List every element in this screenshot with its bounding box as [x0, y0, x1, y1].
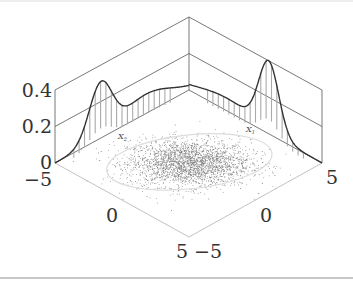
z-tick-0.2: 0.2	[22, 115, 52, 137]
confidence-ellipse	[104, 126, 275, 197]
x2-label: X2	[117, 132, 127, 142]
left-axis-tick-0: 0	[106, 204, 118, 226]
chart-3d-plot: 0.4 0.2 0 −5 0 5 −5 0 5 X2 X1	[0, 0, 353, 281]
left-axis-tick-minus5: −5	[24, 168, 52, 190]
right-axis-tick-minus5: −5	[194, 240, 222, 262]
left-axis-tick-5: 5	[176, 240, 188, 262]
scatter-point-cloud	[73, 121, 291, 211]
scatter-points	[73, 121, 291, 211]
bottom-rule	[0, 277, 353, 279]
z-tick-0.4: 0.4	[22, 79, 52, 101]
right-axis-tick-5: 5	[326, 166, 338, 188]
stems-x2	[74, 82, 170, 158]
x1-label: X1	[245, 125, 255, 135]
ellipse-outline	[104, 126, 275, 197]
right-axis-tick-0: 0	[260, 204, 272, 226]
